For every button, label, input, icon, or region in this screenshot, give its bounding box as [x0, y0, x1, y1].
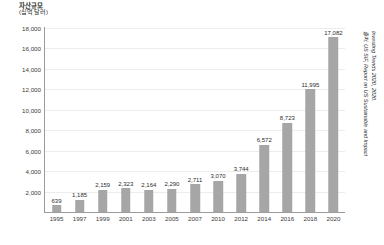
- y-axis-tick-label: 18,000: [22, 25, 41, 32]
- x-axis-tick-label: 2020: [327, 215, 341, 222]
- y-axis-tick-label: 14,000: [22, 65, 41, 72]
- x-axis-tick-label: 1997: [73, 215, 87, 222]
- bar[interactable]: [52, 205, 62, 212]
- x-axis-tick-label: 2001: [119, 215, 133, 222]
- source-note: 출처: US SIF, Report on US Sustainable and…: [361, 31, 383, 211]
- x-axis-tick-label: 2003: [142, 215, 156, 222]
- bar-value-label: 3,070: [211, 173, 226, 179]
- bar[interactable]: [121, 188, 131, 212]
- y-axis-tick-label: 8,000: [26, 127, 41, 134]
- bar[interactable]: [329, 37, 339, 212]
- bar[interactable]: [167, 189, 177, 212]
- bar[interactable]: [75, 200, 85, 212]
- y-axis-tick-label: 2,000: [26, 188, 41, 195]
- source-note-line2: Investing Trends 2020, 2020.: [371, 31, 377, 102]
- bar-value-label: 2,164: [141, 182, 156, 188]
- x-axis-tick-label: 2018: [303, 215, 317, 222]
- y-axis-tick-labels: 18,00016,00014,00012,00010,0008,0006,000…: [0, 28, 41, 212]
- bar-slot: 17,082: [322, 28, 345, 212]
- x-axis-tick-label: 2005: [165, 215, 179, 222]
- bar-slot: 2,323: [114, 28, 137, 212]
- x-axis-tick-label: 2014: [257, 215, 271, 222]
- bar-value-label: 2,323: [118, 181, 133, 187]
- axis-title-line2: (십억 달러): [19, 9, 48, 16]
- y-axis-tick-label: 10,000: [22, 106, 41, 113]
- bar[interactable]: [236, 174, 246, 212]
- bar-slot: 11,995: [299, 28, 322, 212]
- bar-slot: 2,164: [137, 28, 160, 212]
- y-axis-tick-label: 16,000: [22, 45, 41, 52]
- bar-value-label: 11,995: [301, 82, 319, 88]
- x-axis-tick-label: 2007: [188, 215, 202, 222]
- bar[interactable]: [144, 190, 154, 212]
- x-axis-tick-label: 2010: [211, 215, 225, 222]
- plot-area: 6391,1852,1592,3232,1642,2902,7113,0703,…: [45, 28, 345, 212]
- y-axis-tick-label: 4,000: [26, 168, 41, 175]
- x-axis-tick-label: 1999: [96, 215, 110, 222]
- bar[interactable]: [213, 181, 223, 212]
- x-axis-baseline: [45, 212, 345, 213]
- bar-value-label: 1,185: [72, 192, 87, 198]
- bar-slot: 3,744: [230, 28, 253, 212]
- bar[interactable]: [98, 190, 108, 212]
- y-axis-tick-label: 6,000: [26, 147, 41, 154]
- bar-value-label: 17,082: [324, 30, 342, 36]
- chart-figure: 자산규모 (십억 달러) 18,00016,00014,00012,00010,…: [0, 0, 384, 245]
- bar-value-label: 6,572: [257, 137, 272, 143]
- bar-slot: 2,159: [91, 28, 114, 212]
- bar[interactable]: [283, 123, 293, 212]
- bar[interactable]: [306, 89, 316, 212]
- bar-value-label: 639: [52, 198, 62, 204]
- bar-slot: 2,290: [160, 28, 183, 212]
- bar-value-label: 2,290: [164, 181, 179, 187]
- x-axis-tick-label: 1995: [50, 215, 64, 222]
- y-axis-tick-label: 12,000: [22, 86, 41, 93]
- bar-value-label: 3,744: [234, 166, 249, 172]
- bar-slot: 8,723: [276, 28, 299, 212]
- bar-value-label: 2,711: [188, 177, 203, 183]
- x-axis-tick-label: 2016: [280, 215, 294, 222]
- source-note-line1: 출처: US SIF, Report on US Sustainable and…: [362, 31, 370, 156]
- bar-value-label: 2,159: [95, 182, 110, 188]
- axis-title: 자산규모 (십억 달러): [19, 2, 48, 16]
- bar-slot: 3,070: [207, 28, 230, 212]
- bar[interactable]: [259, 145, 269, 212]
- bar-slot: 1,185: [68, 28, 91, 212]
- bar[interactable]: [190, 184, 200, 212]
- bar-value-label: 8,723: [280, 115, 295, 121]
- bar-slot: 6,572: [253, 28, 276, 212]
- x-axis-tick-label: 2012: [234, 215, 248, 222]
- x-axis-tick-labels: 1995199719992001200320052007201020122014…: [45, 215, 345, 229]
- bar-slot: 2,711: [184, 28, 207, 212]
- bar-slot: 639: [45, 28, 68, 212]
